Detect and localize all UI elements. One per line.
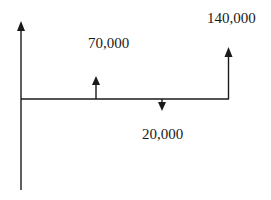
cash-flow-diagram: 70,000 20,000 140,000 [0, 0, 271, 200]
arrow-up-icon [225, 47, 233, 57]
arrow-up-icon [92, 76, 100, 85]
vertical-axis [17, 21, 25, 190]
flow-label-70000: 70,000 [88, 36, 129, 51]
inflow-arrow-70000 [92, 76, 100, 99]
diagram-lines [0, 0, 271, 200]
axis-arrow-up-icon [17, 21, 25, 31]
flow-label-140000: 140,000 [207, 11, 256, 26]
outflow-arrow-20000 [158, 99, 166, 111]
inflow-arrow-140000 [225, 47, 233, 99]
flow-label-20000: 20,000 [142, 127, 183, 142]
arrow-down-icon [158, 102, 166, 111]
